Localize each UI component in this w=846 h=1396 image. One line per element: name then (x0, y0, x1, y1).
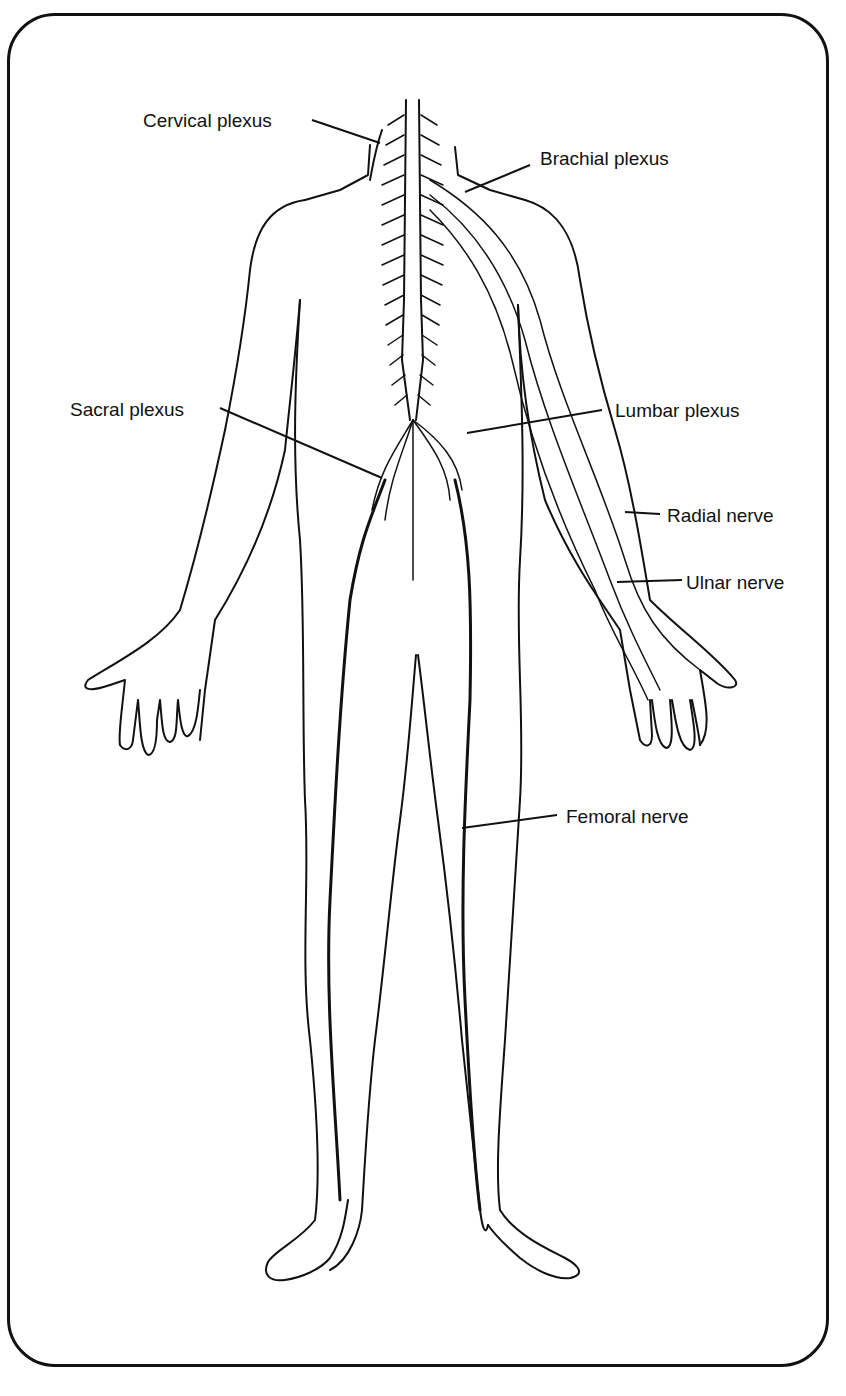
leader-ulnar (617, 580, 682, 582)
label-ulnar-nerve: Ulnar nerve (686, 573, 784, 592)
spinal-cord (370, 100, 443, 420)
right-leg-inner (418, 655, 488, 1230)
brachial-nerve-3 (430, 210, 648, 700)
leader-lines (220, 120, 682, 828)
leader-radial (625, 512, 660, 514)
lumbar-nerve-2 (413, 420, 450, 500)
left-leg-inner (330, 655, 416, 1270)
spinal-cord-left (402, 100, 410, 420)
leader-brachial (465, 165, 530, 192)
spinal-cord-right (416, 100, 423, 420)
peripheral-nerves (329, 180, 700, 1210)
label-radial-nerve: Radial nerve (667, 506, 774, 525)
label-cervical-plexus: Cervical plexus (143, 111, 272, 130)
cervical-plexus-nerve (370, 130, 382, 180)
leader-lumbar (467, 410, 602, 433)
spinal-nerve-roots (382, 115, 443, 405)
right-arm-inner (518, 305, 640, 740)
left-arm-outer (85, 200, 305, 745)
brachial-nerve-2 (430, 195, 660, 690)
leader-sacral (220, 408, 382, 478)
body-outline (85, 145, 736, 1280)
leader-femoral (462, 815, 557, 828)
label-lumbar-plexus: Lumbar plexus (615, 401, 740, 420)
label-brachial-plexus: Brachial plexus (540, 149, 669, 168)
label-sacral-plexus: Sacral plexus (70, 400, 184, 419)
label-femoral-nerve: Femoral nerve (566, 807, 689, 826)
right-hand-fingers (640, 700, 700, 750)
sacral-nerve-2 (385, 420, 413, 520)
sciatic-nerve (329, 480, 385, 1200)
left-arm-inner (200, 300, 300, 740)
left-hand-fingers (120, 690, 200, 755)
leader-cervical (312, 120, 380, 143)
nervous-system-illustration (0, 0, 846, 1396)
neck-left (305, 145, 370, 200)
